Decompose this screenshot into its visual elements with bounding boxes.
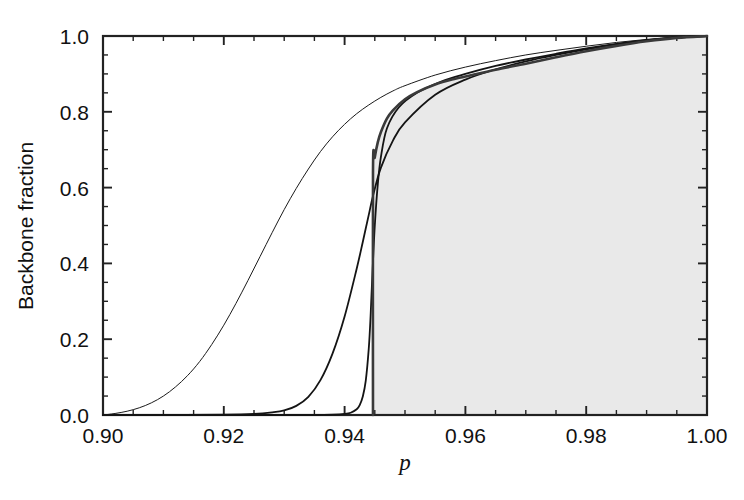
plot-shaded-region (373, 36, 707, 415)
y-tick-label: 0.8 (60, 101, 89, 124)
y-tick-label: 0.0 (60, 404, 89, 427)
x-axis-title: p (397, 450, 411, 475)
chart-figure: 0.900.920.940.960.981.00 0.00.20.40.60.8… (0, 0, 744, 500)
x-tick-label: 1.00 (687, 424, 728, 447)
y-tick-label: 0.4 (60, 252, 90, 275)
x-tick-label: 0.94 (324, 424, 365, 447)
y-tick-label: 0.6 (60, 177, 89, 200)
x-tick-labels: 0.900.920.940.960.981.00 (83, 424, 728, 447)
y-tick-labels: 0.00.20.40.60.81.0 (60, 25, 90, 427)
y-tick-label: 0.2 (60, 328, 89, 351)
x-tick-label: 0.96 (445, 424, 486, 447)
x-tick-label: 0.90 (83, 424, 124, 447)
y-tick-label: 1.0 (60, 25, 89, 48)
x-tick-label: 0.92 (203, 424, 244, 447)
y-axis-title: Backbone fraction (14, 142, 37, 310)
backbone-fraction-chart: 0.900.920.940.960.981.00 0.00.20.40.60.8… (0, 0, 744, 500)
x-tick-label: 0.98 (566, 424, 607, 447)
